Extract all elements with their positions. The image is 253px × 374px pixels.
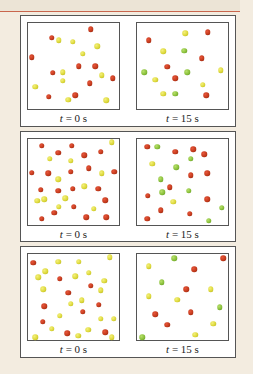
red-molecule <box>158 208 164 214</box>
green-molecule <box>182 48 188 54</box>
yellow-molecule <box>34 198 40 204</box>
yellow-molecule <box>85 327 91 333</box>
green-molecule <box>184 69 190 75</box>
yellow-molecule <box>43 268 49 274</box>
red-molecule <box>29 55 35 61</box>
red-molecule <box>145 193 151 199</box>
yellow-molecule <box>98 287 104 293</box>
yellow-molecule <box>76 259 82 265</box>
yellow-molecule <box>182 31 188 37</box>
red-molecule <box>95 186 101 192</box>
red-molecule <box>50 70 56 76</box>
yellow-molecule <box>47 156 53 162</box>
red-molecule <box>167 184 173 190</box>
yellow-molecule <box>171 199 177 205</box>
time-label: t = 15 s <box>136 228 229 240</box>
yellow-molecule <box>60 78 66 84</box>
yellow-molecule <box>70 39 76 45</box>
red-molecule <box>64 330 70 336</box>
yellow-molecule <box>107 255 113 261</box>
green-molecule <box>140 335 146 341</box>
red-molecule <box>104 215 110 221</box>
green-molecule <box>172 256 178 262</box>
time-label: t = 15 s <box>136 112 229 124</box>
red-molecule <box>29 170 35 176</box>
red-molecule <box>187 211 193 217</box>
yellow-molecule <box>99 171 105 177</box>
green-molecule <box>159 280 165 286</box>
yellow-molecule <box>146 263 152 269</box>
red-molecule <box>55 188 61 194</box>
panel-row-3: t = 0 st = 15 s <box>20 246 236 358</box>
red-molecule <box>31 260 37 266</box>
green-molecule <box>188 156 194 162</box>
yellow-molecule <box>55 259 61 265</box>
yellow-molecule <box>42 196 48 202</box>
time-label: t = 0 s <box>27 228 120 240</box>
red-molecule <box>71 204 77 210</box>
yellow-molecule <box>109 140 115 146</box>
yellow-molecule <box>161 91 167 97</box>
green-molecule <box>173 165 179 171</box>
green-molecule <box>186 188 192 194</box>
yellow-molecule <box>150 161 156 167</box>
yellow-molecule <box>102 278 108 284</box>
red-molecule <box>202 152 208 158</box>
panel-row-2: t = 0 st = 15 s <box>20 131 236 242</box>
green-molecule <box>142 69 148 75</box>
yellow-molecule <box>211 321 217 327</box>
red-molecule <box>76 63 82 69</box>
red-molecule <box>55 150 61 156</box>
red-molecule <box>191 147 197 153</box>
red-molecule <box>103 197 109 203</box>
yellow-molecule <box>65 97 71 103</box>
red-molecule <box>204 171 210 177</box>
red-molecule <box>80 309 86 315</box>
yellow-molecule <box>73 274 79 280</box>
yellow-molecule <box>35 274 41 280</box>
yellow-molecule <box>55 177 61 183</box>
red-molecule <box>203 92 209 98</box>
green-molecule <box>217 305 223 311</box>
yellow-molecule <box>91 206 97 212</box>
red-molecule <box>39 216 45 222</box>
red-molecule <box>42 304 48 310</box>
red-molecule <box>144 144 150 150</box>
red-molecule <box>69 143 75 149</box>
red-molecule <box>38 187 44 193</box>
yellow-molecule <box>68 158 74 164</box>
yellow-molecule <box>49 326 55 332</box>
time-label: t = 0 s <box>27 112 120 124</box>
container-t15 <box>136 22 229 110</box>
yellow-molecule <box>68 301 74 307</box>
red-molecule <box>70 186 76 192</box>
yellow-molecule <box>200 82 206 88</box>
container-t0 <box>27 22 120 110</box>
yellow-molecule <box>57 313 63 319</box>
time-label: t = 15 s <box>136 343 229 355</box>
red-molecule <box>164 64 170 70</box>
red-molecule <box>88 283 94 289</box>
red-molecule <box>46 94 52 100</box>
green-molecule <box>206 218 212 224</box>
yellow-molecule <box>33 84 39 90</box>
green-molecule <box>160 190 166 196</box>
yellow-molecule <box>56 204 62 210</box>
red-molecule <box>96 302 102 308</box>
green-molecule <box>158 177 164 183</box>
container-t15 <box>136 253 229 341</box>
yellow-molecule <box>161 49 167 55</box>
red-molecule <box>45 171 51 177</box>
green-molecule <box>154 144 160 150</box>
yellow-molecule <box>33 335 39 341</box>
red-molecule <box>188 172 194 178</box>
yellow-molecule <box>98 316 104 322</box>
yellow-molecule <box>146 293 152 299</box>
yellow-molecule <box>80 51 86 57</box>
red-molecule <box>192 267 198 273</box>
red-molecule <box>183 287 189 293</box>
red-molecule <box>83 215 89 221</box>
red-molecule <box>93 63 99 69</box>
red-molecule <box>199 56 205 62</box>
yellow-molecule <box>192 332 198 338</box>
